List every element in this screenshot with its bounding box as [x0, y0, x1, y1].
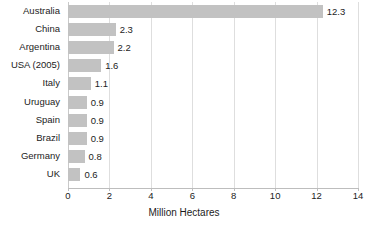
- bar: [68, 168, 80, 181]
- bar: [68, 77, 91, 90]
- bar: [68, 150, 85, 163]
- category-label: Argentina: [0, 42, 60, 52]
- bar-value-label: 0.9: [91, 96, 104, 109]
- bar: [68, 41, 114, 54]
- category-label: Italy: [0, 78, 60, 88]
- gridline: [358, 2, 359, 188]
- x-axis-tick-label: 4: [148, 190, 153, 202]
- bar-value-label: 2.3: [120, 23, 133, 36]
- x-axis-tickmark: [234, 188, 235, 191]
- gridline: [192, 2, 193, 188]
- bar: [68, 96, 87, 109]
- bar: [68, 132, 87, 145]
- x-axis-tickmark: [358, 188, 359, 191]
- category-label: Spain: [0, 115, 60, 125]
- gridline: [151, 2, 152, 188]
- category-label: Uruguay: [0, 97, 60, 107]
- bar-value-label: 1.6: [105, 59, 118, 72]
- x-axis-tickmark: [192, 188, 193, 191]
- bar-value-label: 0.8: [89, 150, 102, 163]
- category-label: Brazil: [0, 133, 60, 143]
- bar: [68, 114, 87, 127]
- category-label: Germany: [0, 151, 60, 161]
- x-axis-tickmark: [109, 188, 110, 191]
- bar: [68, 5, 323, 18]
- x-axis-tick-label: 10: [270, 190, 281, 202]
- x-axis-tickmark: [275, 188, 276, 191]
- x-axis-tick-label: 2: [107, 190, 112, 202]
- x-axis-tickmark: [68, 188, 69, 191]
- category-label: UK: [0, 169, 60, 179]
- category-label: Australia: [0, 6, 60, 16]
- bar-chart: AustraliaChinaArgentinaUSA (2005)ItalyUr…: [0, 0, 368, 231]
- bar: [68, 59, 101, 72]
- gridline: [234, 2, 235, 188]
- bar-value-label: 0.9: [91, 132, 104, 145]
- x-axis-tick-label: 6: [190, 190, 195, 202]
- x-axis-title: Million Hectares: [0, 207, 368, 218]
- category-label: China: [0, 24, 60, 34]
- category-axis-labels: AustraliaChinaArgentinaUSA (2005)ItalyUr…: [0, 5, 64, 188]
- x-axis-tick-label: 8: [231, 190, 236, 202]
- x-axis-tickmark: [151, 188, 152, 191]
- x-axis-line: [68, 188, 358, 189]
- bar-value-label: 2.2: [118, 41, 131, 54]
- bar-value-label: 12.3: [327, 5, 346, 18]
- gridline: [317, 2, 318, 188]
- plot-area: 12.32.32.21.61.10.90.90.90.80.6: [68, 2, 358, 188]
- bar-value-label: 1.1: [95, 77, 108, 90]
- gridline: [275, 2, 276, 188]
- bar: [68, 23, 116, 36]
- x-axis-tick-label: 14: [353, 190, 364, 202]
- category-label: USA (2005): [0, 60, 60, 70]
- x-axis-tick-label: 12: [311, 190, 322, 202]
- bar-value-label: 0.6: [84, 168, 97, 181]
- x-axis-tick-label: 0: [65, 190, 70, 202]
- bar-value-label: 0.9: [91, 114, 104, 127]
- x-axis-tickmark: [317, 188, 318, 191]
- x-axis-tick-labels: 02468101214: [0, 190, 368, 204]
